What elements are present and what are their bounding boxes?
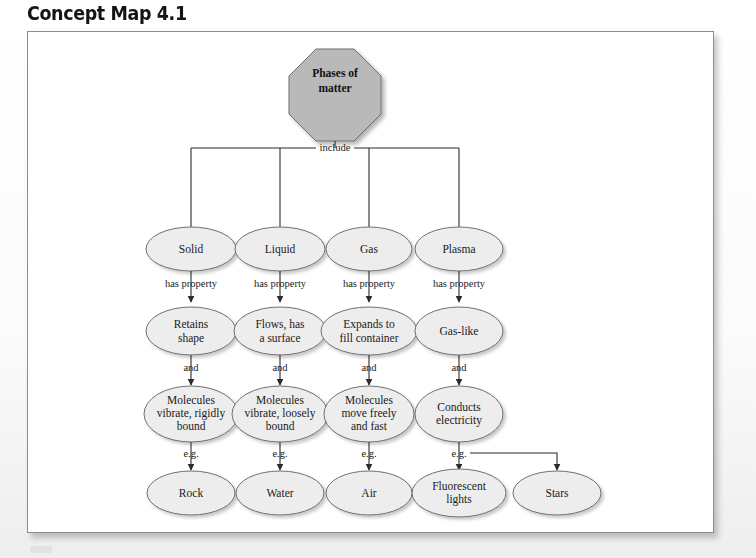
node-label-line: Molecules: [256, 394, 304, 406]
node-label-line: fill container: [339, 332, 398, 344]
node-phases-of-matter[interactable]: Phases of matter: [289, 49, 381, 141]
node-label-line: Fluorescent: [432, 480, 486, 492]
node-flows-has-surface[interactable]: Flows, has a surface: [234, 307, 326, 355]
node-label-line: Solid: [179, 243, 204, 255]
node-stars[interactable]: Stars: [513, 471, 601, 515]
link-label-has-property: has property: [343, 278, 396, 289]
link-label-eg: e.g.: [451, 448, 466, 459]
node-solid[interactable]: Solid: [146, 227, 236, 271]
node-label-line: lights: [446, 493, 472, 506]
node-gas[interactable]: Gas: [326, 227, 412, 271]
node-label-line: Molecules: [167, 394, 215, 406]
node-label-line: Stars: [546, 487, 570, 499]
node-label-line: Flows, has: [255, 318, 305, 331]
node-label-line: a surface: [259, 332, 300, 344]
link-label-and: and: [183, 362, 199, 373]
node-molecules-free-fast[interactable]: Molecules move freely and fast: [324, 386, 414, 442]
node-label-line: and fast: [351, 420, 388, 432]
ellipse-shape: [234, 307, 326, 355]
page-title: Concept Map 4.1: [27, 2, 187, 24]
node-air[interactable]: Air: [326, 471, 412, 515]
node-label-line: electricity: [436, 414, 482, 427]
link-label-and: and: [451, 362, 467, 373]
node-label-line: bound: [177, 420, 206, 432]
node-label-line: Rock: [179, 487, 204, 499]
node-label-line: Retains: [174, 318, 209, 330]
column-liquid: Liquid has property Flows, has a surface…: [232, 227, 328, 515]
node-molecules-rigid[interactable]: Molecules vibrate, rigidly bound: [144, 386, 238, 442]
node-label-line: matter: [318, 82, 351, 94]
link-label-eg: e.g.: [361, 448, 376, 459]
node-label-line: Air: [361, 487, 377, 499]
node-molecules-loose[interactable]: Molecules vibrate, loosely bound: [232, 386, 328, 442]
link-label-include: include: [320, 142, 351, 153]
link-label-and: and: [361, 362, 377, 373]
node-label-line: Molecules: [345, 394, 393, 406]
node-label-line: Phases of: [312, 67, 358, 79]
node-label-line: Expands to: [343, 318, 395, 331]
ellipse-shape: [146, 307, 236, 355]
column-solid: Solid has property Retains shape and Mol…: [144, 227, 238, 515]
node-label-line: Water: [266, 487, 293, 499]
node-retains-shape[interactable]: Retains shape: [146, 307, 236, 355]
node-plasma[interactable]: Plasma: [415, 227, 503, 271]
node-label-line: move freely: [341, 407, 396, 420]
node-label-line: Conducts: [437, 401, 481, 413]
link-label-has-property: has property: [165, 278, 218, 289]
node-gas-like[interactable]: Gas-like: [415, 307, 503, 355]
node-label-line: shape: [178, 332, 204, 345]
node-rock[interactable]: Rock: [147, 471, 235, 515]
link-label-has-property: has property: [254, 278, 307, 289]
concept-map-diagram: Phases of matter include Solid has prope…: [28, 32, 714, 533]
column-gas: Gas has property Expands to fill contain…: [321, 227, 417, 515]
node-label-line: vibrate, loosely: [245, 407, 316, 420]
figure-frame: Phases of matter include Solid has prope…: [27, 31, 714, 533]
node-label-line: vibrate, rigidly: [157, 407, 226, 420]
connector-eg-branch: [459, 442, 557, 470]
node-label-line: Plasma: [442, 243, 475, 255]
link-label-eg: e.g.: [183, 448, 198, 459]
page-footer-mark: [30, 546, 52, 553]
link-label-and: and: [272, 362, 288, 373]
node-water[interactable]: Water: [236, 471, 324, 515]
node-conducts-electricity[interactable]: Conducts electricity: [415, 386, 503, 442]
node-fluorescent-lights[interactable]: Fluorescent lights: [412, 469, 506, 517]
link-label-has-property: has property: [433, 278, 486, 289]
node-label-line: Gas: [360, 243, 378, 255]
connector-root-to-bus: [191, 141, 459, 243]
ellipse-shape: [321, 307, 417, 355]
node-expands-fill-container[interactable]: Expands to fill container: [321, 307, 417, 355]
octagon-shape: [289, 49, 381, 141]
node-liquid[interactable]: Liquid: [235, 227, 325, 271]
node-label-line: Gas-like: [440, 325, 479, 337]
link-label-eg: e.g.: [272, 448, 287, 459]
node-label-line: bound: [266, 420, 295, 432]
node-label-line: Liquid: [265, 243, 296, 256]
